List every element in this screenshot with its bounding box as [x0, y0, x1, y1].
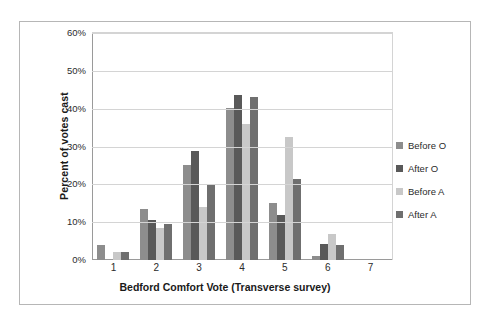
y-axis-tick-label: 10% — [46, 216, 86, 227]
bar[interactable] — [148, 220, 156, 260]
x-axis-title: Bedford Comfort Vote (Transverse survey) — [60, 281, 390, 293]
legend-swatch-icon — [396, 142, 403, 149]
bar[interactable] — [156, 228, 164, 260]
gridline — [92, 147, 392, 148]
bar[interactable] — [191, 151, 199, 260]
gridline — [92, 33, 392, 34]
chart-frame: Percent of votes cast 0%10%20%30%40%50%6… — [19, 21, 471, 305]
bar[interactable] — [164, 224, 172, 260]
x-axis-tick-label: 7 — [368, 262, 374, 273]
gridline — [92, 222, 392, 223]
gridline — [92, 71, 392, 72]
bar[interactable] — [250, 97, 258, 260]
bar[interactable] — [234, 95, 242, 260]
legend-label: After A — [408, 209, 437, 220]
legend-item[interactable]: After A — [396, 203, 486, 226]
y-axis-tick-label: 30% — [46, 140, 86, 151]
legend-label: After O — [408, 163, 438, 174]
y-axis-tick-label: 60% — [46, 27, 86, 38]
legend-swatch-icon — [396, 165, 403, 172]
bar[interactable] — [312, 256, 320, 260]
chart-figure: Percent of votes cast 0%10%20%30%40%50%6… — [0, 0, 492, 329]
chart-legend: Before OAfter OBefore AAfter A — [396, 134, 486, 226]
x-axis-tick-label: 2 — [154, 262, 160, 273]
bar[interactable] — [285, 137, 293, 260]
x-axis-tick-label: 1 — [111, 262, 117, 273]
y-axis-tick-label: 20% — [46, 178, 86, 189]
y-axis-tick-labels: 0%10%20%30%40%50%60% — [46, 32, 86, 259]
x-axis-tick-label: 4 — [239, 262, 245, 273]
legend-label: Before A — [408, 186, 444, 197]
legend-item[interactable]: Before A — [396, 180, 486, 203]
bar[interactable] — [97, 245, 105, 260]
legend-swatch-icon — [396, 211, 403, 218]
bar[interactable] — [113, 252, 121, 260]
bar[interactable] — [269, 203, 277, 260]
bar[interactable] — [140, 209, 148, 260]
y-axis-tick-label: 50% — [46, 64, 86, 75]
y-axis-tick-label: 40% — [46, 102, 86, 113]
y-axis-tick-label: 0% — [46, 254, 86, 265]
gridline — [92, 109, 392, 110]
legend-label: Before O — [408, 140, 446, 151]
x-axis-tick-label: 3 — [196, 262, 202, 273]
gridline — [92, 184, 392, 185]
legend-swatch-icon — [396, 188, 403, 195]
bar[interactable] — [293, 179, 301, 260]
legend-item[interactable]: After O — [396, 157, 486, 180]
bar[interactable] — [183, 165, 191, 260]
x-axis-tick-label: 6 — [325, 262, 331, 273]
bar[interactable] — [328, 234, 336, 260]
bar[interactable] — [336, 245, 344, 260]
x-axis-tick-labels: 1234567 — [92, 262, 392, 278]
bar[interactable] — [121, 252, 129, 260]
x-axis-tick-label: 5 — [282, 262, 288, 273]
plot-area — [92, 32, 393, 260]
legend-item[interactable]: Before O — [396, 134, 486, 157]
bar[interactable] — [320, 244, 328, 260]
bar[interactable] — [242, 124, 250, 260]
bar[interactable] — [199, 207, 207, 260]
